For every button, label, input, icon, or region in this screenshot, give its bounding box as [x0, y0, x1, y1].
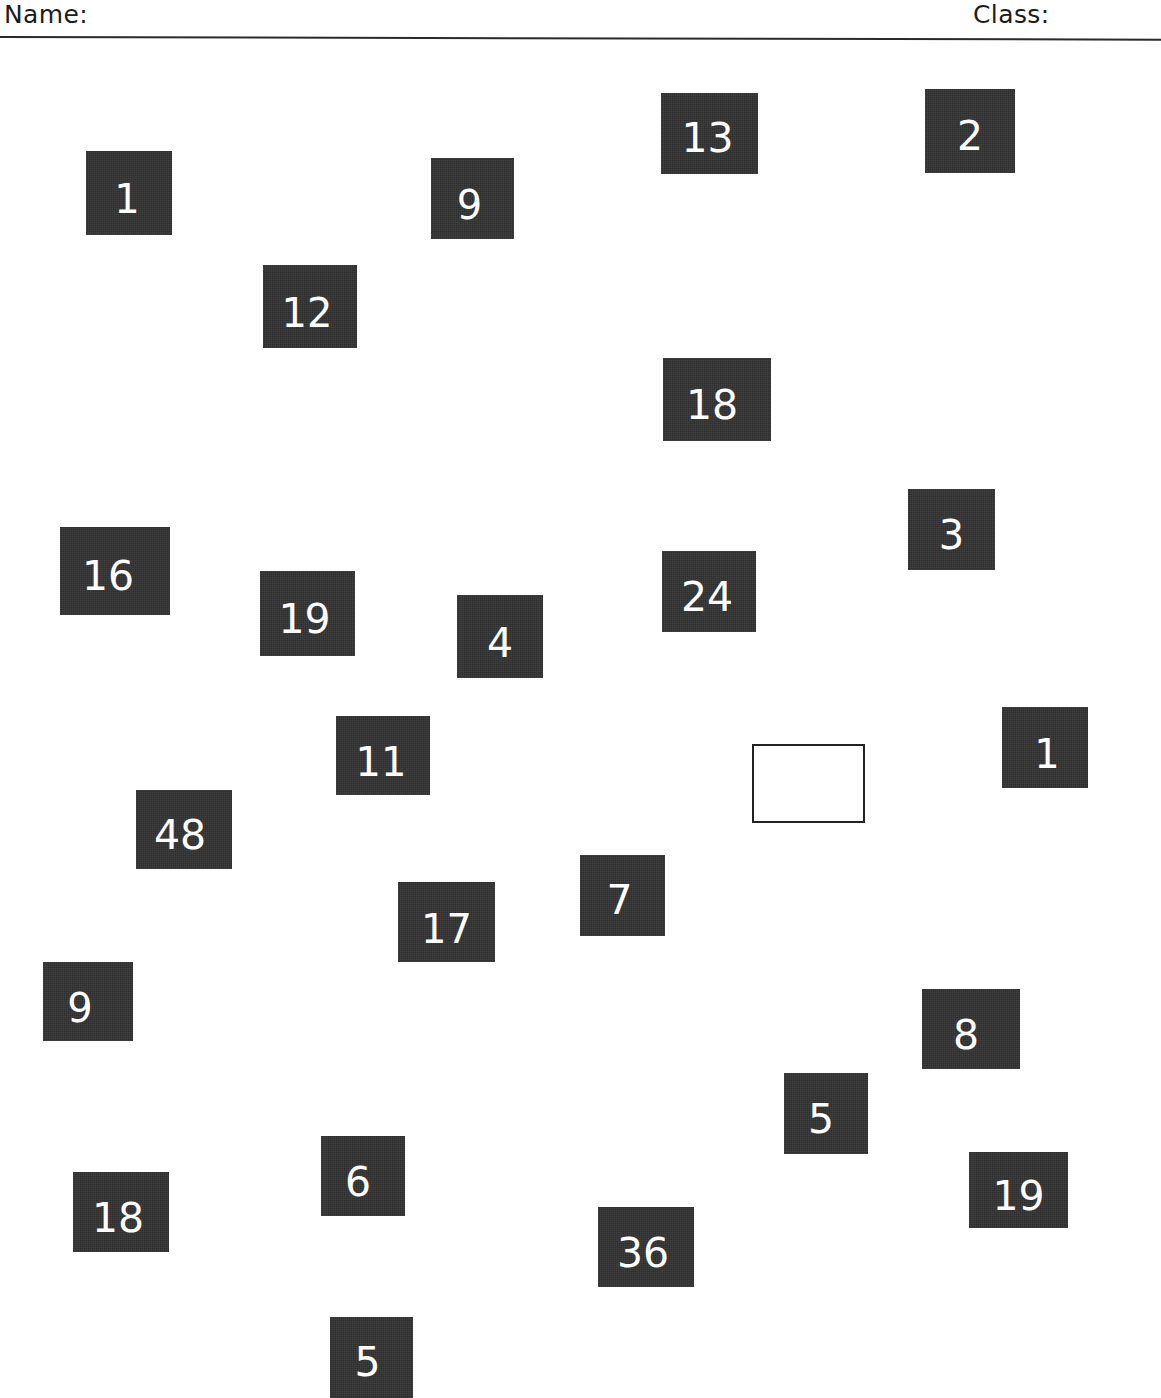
number-tile-value: 19: [278, 599, 330, 640]
number-tile[interactable]: 1: [1002, 707, 1088, 788]
number-tile-value: 24: [681, 577, 733, 618]
number-tile-value: 12: [282, 293, 333, 333]
number-tile[interactable]: 9: [431, 158, 514, 239]
empty-answer-box[interactable]: [752, 744, 865, 823]
number-tile-value: 9: [67, 988, 92, 1028]
number-tile[interactable]: 3: [908, 489, 995, 570]
number-tile[interactable]: 48: [136, 790, 232, 869]
number-tile[interactable]: 36: [598, 1207, 694, 1287]
number-tile[interactable]: 1: [86, 151, 172, 235]
number-tile[interactable]: 17: [398, 882, 495, 962]
number-tile[interactable]: 12: [263, 265, 357, 348]
number-tile[interactable]: 5: [330, 1317, 413, 1398]
number-tile-value: 48: [154, 815, 206, 856]
number-tile-value: 7: [606, 880, 632, 921]
number-tile-value: 11: [356, 742, 407, 782]
number-tile-value: 36: [617, 1233, 669, 1274]
number-tile[interactable]: 11: [336, 716, 430, 795]
class-label: Class:: [973, 0, 1050, 29]
number-tile-value: 1: [114, 179, 139, 219]
number-tile-value: 8: [953, 1015, 979, 1056]
number-tile[interactable]: 2: [925, 89, 1015, 173]
number-tile-value: 6: [345, 1162, 371, 1203]
number-tile-value: 18: [686, 385, 738, 426]
number-tile-value: 9: [457, 185, 482, 225]
number-tile[interactable]: 18: [663, 358, 771, 441]
number-tile[interactable]: 13: [661, 93, 758, 174]
number-tile[interactable]: 8: [922, 989, 1020, 1069]
number-tile-value: 19: [992, 1176, 1044, 1217]
number-tile-value: 13: [681, 118, 733, 159]
number-tile-value: 2: [957, 116, 983, 157]
number-tile[interactable]: 19: [260, 571, 355, 656]
header-divider: [0, 36, 1161, 41]
number-tile-value: 5: [354, 1342, 380, 1383]
number-tile-value: 5: [808, 1099, 834, 1140]
number-tile-value: 1: [1034, 734, 1059, 774]
number-tile[interactable]: 19: [969, 1152, 1068, 1228]
number-tile[interactable]: 16: [60, 527, 170, 615]
number-tile[interactable]: 24: [662, 551, 756, 632]
number-tile[interactable]: 18: [73, 1172, 169, 1252]
number-tile[interactable]: 9: [43, 962, 133, 1041]
number-tile[interactable]: 5: [784, 1073, 868, 1154]
worksheet-page: Name: Class: 113291218316241941114871798…: [0, 0, 1161, 1398]
number-tile-value: 16: [82, 556, 134, 597]
number-tile-value: 4: [487, 623, 513, 664]
number-tile-value: 18: [92, 1198, 144, 1239]
name-label: Name:: [4, 0, 88, 29]
number-tile[interactable]: 4: [457, 595, 543, 678]
number-tile-value: 3: [939, 515, 964, 555]
worksheet-header: Name: Class:: [0, 0, 1161, 42]
number-tile[interactable]: 6: [321, 1136, 405, 1216]
number-tile[interactable]: 7: [580, 855, 665, 936]
number-tile-value: 17: [421, 909, 472, 949]
